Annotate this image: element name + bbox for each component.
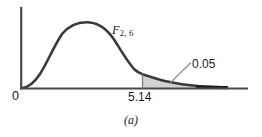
curve-label-base: F [112,23,120,37]
panel-caption: (a) [0,114,262,126]
f-distribution-figure: F2, 6 0.05 0 5.14 (a) [0,0,262,137]
origin-label: 0 [12,90,19,103]
curve-label-subscript: 2, 6 [120,28,134,38]
critical-value-label: 5.14 [128,91,151,103]
tail-area-label: 0.05 [192,58,215,70]
tail-area-leader-line [170,63,192,84]
curve-label: F2, 6 [112,24,134,38]
